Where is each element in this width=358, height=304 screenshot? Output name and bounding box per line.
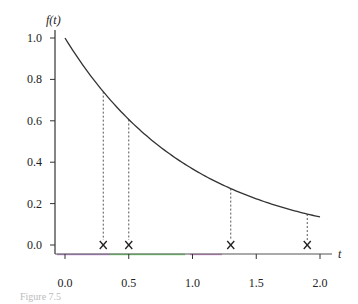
x-tick-label: 0.5 bbox=[121, 276, 136, 290]
x-marker bbox=[304, 241, 311, 249]
y-tick-label: 0.2 bbox=[27, 197, 42, 211]
x-marker bbox=[100, 241, 107, 249]
y-axis-title: f(t) bbox=[46, 13, 61, 27]
dashed-connectors bbox=[103, 92, 307, 240]
chart: 0.00.20.40.60.81.0 0.00.51.01.52.0 f(t) … bbox=[0, 0, 358, 304]
x-tick-label: 1.5 bbox=[249, 276, 264, 290]
x-tick-label: 2.0 bbox=[313, 276, 328, 290]
y-tick-label: 0.6 bbox=[27, 114, 42, 128]
figure-caption: Figure 7.5 bbox=[20, 291, 61, 302]
x-axis: 0.00.51.01.52.0 bbox=[55, 254, 332, 290]
x-markers bbox=[100, 241, 311, 249]
y-tick-label: 0.0 bbox=[27, 238, 42, 252]
x-marker bbox=[227, 241, 234, 249]
x-axis-title: t bbox=[338, 247, 342, 261]
x-tick-label: 0.0 bbox=[58, 276, 73, 290]
x-marker bbox=[125, 241, 132, 249]
y-axis: 0.00.20.40.60.81.0 bbox=[27, 30, 55, 254]
y-tick-label: 0.4 bbox=[27, 155, 42, 169]
y-tick-label: 0.8 bbox=[27, 72, 42, 86]
function-curve bbox=[65, 38, 320, 217]
x-tick-label: 1.0 bbox=[185, 276, 200, 290]
y-tick-label: 1.0 bbox=[27, 31, 42, 45]
